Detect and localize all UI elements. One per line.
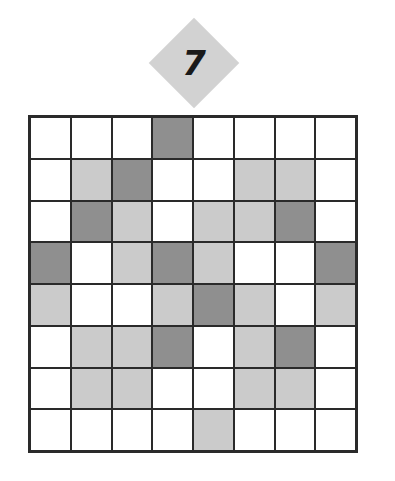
grid-cell[interactable] bbox=[235, 118, 274, 158]
puzzle-number-badge: 7 bbox=[149, 18, 239, 108]
grid-cell[interactable] bbox=[72, 327, 111, 367]
grid-cell[interactable] bbox=[31, 285, 70, 325]
grid-cell[interactable] bbox=[153, 160, 192, 200]
grid-cell[interactable] bbox=[31, 327, 70, 367]
puzzle-grid bbox=[28, 115, 358, 453]
grid-cell[interactable] bbox=[276, 369, 315, 409]
grid-cell[interactable] bbox=[113, 369, 152, 409]
grid-cell[interactable] bbox=[235, 243, 274, 283]
grid-cell[interactable] bbox=[153, 285, 192, 325]
grid-cell[interactable] bbox=[316, 243, 355, 283]
grid-cell[interactable] bbox=[72, 369, 111, 409]
grid-cell[interactable] bbox=[316, 118, 355, 158]
puzzle-number: 7 bbox=[149, 18, 239, 108]
grid-cell[interactable] bbox=[276, 118, 315, 158]
grid-cell[interactable] bbox=[194, 118, 233, 158]
grid-cell[interactable] bbox=[235, 327, 274, 367]
grid-cell[interactable] bbox=[72, 243, 111, 283]
grid-cell[interactable] bbox=[31, 160, 70, 200]
grid-cell[interactable] bbox=[235, 160, 274, 200]
grid-cell[interactable] bbox=[194, 327, 233, 367]
grid-cell[interactable] bbox=[316, 285, 355, 325]
grid-cell[interactable] bbox=[276, 243, 315, 283]
grid-cell[interactable] bbox=[194, 202, 233, 242]
grid-cell[interactable] bbox=[72, 118, 111, 158]
grid-cell[interactable] bbox=[72, 160, 111, 200]
grid-cell[interactable] bbox=[31, 118, 70, 158]
grid-cell[interactable] bbox=[235, 202, 274, 242]
grid-cell[interactable] bbox=[72, 410, 111, 450]
grid-cell[interactable] bbox=[153, 202, 192, 242]
grid-cell[interactable] bbox=[72, 285, 111, 325]
grid-cell[interactable] bbox=[113, 243, 152, 283]
grid-cell[interactable] bbox=[113, 285, 152, 325]
grid-cell[interactable] bbox=[235, 410, 274, 450]
grid-cell[interactable] bbox=[316, 410, 355, 450]
grid-cell[interactable] bbox=[153, 369, 192, 409]
grid-cell[interactable] bbox=[276, 202, 315, 242]
grid-cell[interactable] bbox=[194, 243, 233, 283]
grid-cell[interactable] bbox=[72, 202, 111, 242]
grid-cell[interactable] bbox=[316, 369, 355, 409]
grid-cell[interactable] bbox=[113, 160, 152, 200]
grid-cell[interactable] bbox=[31, 243, 70, 283]
grid-cell[interactable] bbox=[153, 243, 192, 283]
grid-cell[interactable] bbox=[113, 327, 152, 367]
grid-cell[interactable] bbox=[153, 410, 192, 450]
grid-cell[interactable] bbox=[113, 202, 152, 242]
grid-cell[interactable] bbox=[153, 118, 192, 158]
grid-cell[interactable] bbox=[316, 160, 355, 200]
grid-cell[interactable] bbox=[194, 410, 233, 450]
grid-cell[interactable] bbox=[316, 327, 355, 367]
grid-cell[interactable] bbox=[194, 369, 233, 409]
grid-cell[interactable] bbox=[31, 202, 70, 242]
grid-cell[interactable] bbox=[31, 410, 70, 450]
grid-cell[interactable] bbox=[276, 160, 315, 200]
grid-cell[interactable] bbox=[235, 369, 274, 409]
grid-cell[interactable] bbox=[194, 285, 233, 325]
grid-cell[interactable] bbox=[316, 202, 355, 242]
grid-cell[interactable] bbox=[276, 327, 315, 367]
grid-cell[interactable] bbox=[31, 369, 70, 409]
grid-cell[interactable] bbox=[113, 118, 152, 158]
grid-cell[interactable] bbox=[194, 160, 233, 200]
grid-cell[interactable] bbox=[153, 327, 192, 367]
grid-cell[interactable] bbox=[276, 410, 315, 450]
grid-cell[interactable] bbox=[235, 285, 274, 325]
grid-cell[interactable] bbox=[276, 285, 315, 325]
grid-cell[interactable] bbox=[113, 410, 152, 450]
